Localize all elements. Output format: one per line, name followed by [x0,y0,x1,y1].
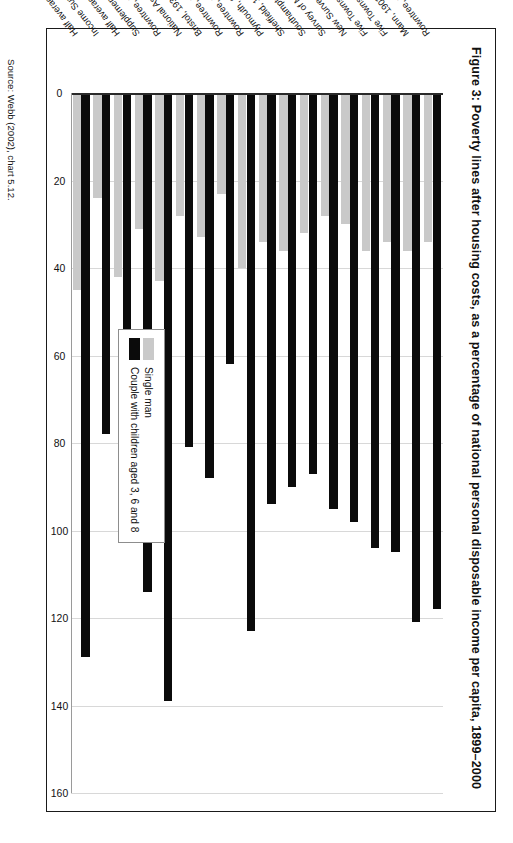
bar-single-man [300,93,308,233]
bar-couple-with-children [329,93,337,509]
figure-frame: Figure 3: Poverty lines after housing co… [46,28,496,812]
source-caption: Source: Webb (2002), chart 5.12. [6,59,17,201]
bar-single-man [383,93,391,242]
bar-couple-with-children [267,93,275,504]
axis-tick-label: 40 [54,263,66,274]
bar-row [92,93,113,793]
bar-single-man [424,93,432,242]
legend-item-single-man: Single man [143,338,154,532]
bar-row [216,93,237,793]
bar-single-man [197,93,205,237]
bar-single-man [403,93,411,251]
category-axis-line [71,93,72,793]
bar-single-man [114,93,122,277]
bar-single-man [217,93,225,194]
bar-row [422,93,443,793]
bar-single-man [238,93,246,268]
bar-couple-with-children [350,93,358,522]
rotated-canvas: Figure 3: Poverty lines after housing co… [0,0,513,843]
bar-single-man [362,93,370,251]
bar-single-man [341,93,349,224]
axis-tick-label: 20 [54,175,66,186]
gridline [71,793,443,794]
bar-row [381,93,402,793]
bar-couple-with-children [433,93,441,609]
legend-swatch-couple [129,338,140,360]
bar-row [174,93,195,793]
legend-swatch-single-man [143,338,154,360]
bar-row [319,93,340,793]
axis-tick-labels: 020406080100120140160 [41,93,67,793]
bar-single-man [155,93,163,281]
bar-couple-with-children [371,93,379,548]
bar-row [298,93,319,793]
bar-row [257,93,278,793]
bar-couple-with-children [102,93,110,434]
bar-couple-with-children [226,93,234,364]
bar-couple-with-children [288,93,296,487]
bar-row [195,93,216,793]
bar-row [278,93,299,793]
axis-tick-label: 80 [54,438,66,449]
legend-item-couple: Couple with children aged 3, 6 and 8 [129,338,140,532]
bar-couple-with-children [391,93,399,552]
value-axis-line [71,93,443,95]
axis-tick-label: 140 [51,700,68,711]
bar-couple-with-children [205,93,213,478]
bar-couple-with-children [81,93,89,657]
axis-tick-label: 160 [51,788,68,799]
chart-legend: Single man Couple with children aged 3, … [118,329,165,543]
bar-single-man [176,93,184,216]
bar-row [236,93,257,793]
bar-single-man [259,93,267,242]
figure-title: Figure 3: Poverty lines after housing co… [469,47,483,797]
bar-single-man [279,93,287,251]
axis-tick-label: 0 [57,88,63,99]
axis-tick-label: 100 [51,525,68,536]
bar-couple-with-children [309,93,317,474]
bar-couple-with-children [164,93,172,701]
axis-tick-label: 120 [51,613,68,624]
bar-couple-with-children [247,93,255,631]
bar-row [402,93,423,793]
bar-single-man [321,93,329,216]
bar-single-man [73,93,81,290]
legend-label-single-man: Single man [143,367,154,418]
legend-label-couple: Couple with children aged 3, 6 and 8 [129,367,140,532]
bar-single-man [93,93,101,198]
bar-row [71,93,92,793]
bar-couple-with-children [412,93,420,622]
bar-row [340,93,361,793]
bar-row [360,93,381,793]
bar-single-man [135,93,143,229]
axis-tick-label: 60 [54,350,66,361]
figure-stage: Figure 3: Poverty lines after housing co… [0,0,513,843]
bar-couple-with-children [185,93,193,447]
